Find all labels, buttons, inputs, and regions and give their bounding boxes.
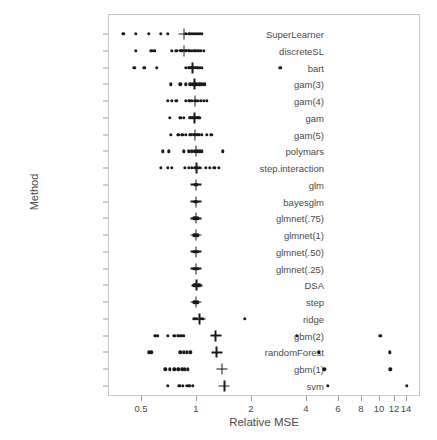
- x-tick-label-2: 2: [248, 403, 253, 414]
- mean-marker: [191, 246, 202, 257]
- y-tick-label-gam-4: gam(4): [294, 96, 324, 107]
- mean-marker: [190, 129, 201, 140]
- y-tick-label-gam-3: gam(3): [294, 79, 324, 90]
- x-tick-mark: [406, 396, 407, 401]
- y-tick-label-glmnet-1: glmnet(1): [284, 230, 324, 241]
- y-tick-label-bayesglm: bayesglm: [283, 196, 324, 207]
- plot-panel: [108, 14, 420, 396]
- y-tick-mark: [103, 251, 108, 252]
- y-tick-label-gbm-1: gbm(1): [294, 364, 324, 375]
- y-tick-mark: [103, 285, 108, 286]
- y-tick-mark: [103, 302, 108, 303]
- y-tick-mark: [103, 201, 108, 202]
- x-tick-label-12: 12: [389, 403, 400, 414]
- y-tick-mark: [103, 318, 108, 319]
- y-tick-mark: [103, 335, 108, 336]
- mean-marker: [191, 179, 202, 190]
- mean-marker: [191, 297, 202, 308]
- y-tick-mark: [103, 101, 108, 102]
- y-tick-label-discretesl: discreteSL: [279, 45, 324, 56]
- y-tick-label-glm: glm: [309, 179, 324, 190]
- y-tick-label-gam-5: gam(5): [294, 129, 324, 140]
- y-tick-mark: [103, 151, 108, 152]
- x-tick-mark: [361, 396, 362, 401]
- mean-marker: [191, 263, 202, 274]
- x-tick-mark: [306, 396, 307, 401]
- y-tick-label-randomforest: randomForest: [265, 347, 324, 358]
- chart-figure: Method Relative MSE SuperLearnerdiscrete…: [0, 0, 437, 440]
- x-tick-mark: [196, 396, 197, 401]
- x-tick-mark: [251, 396, 252, 401]
- mean-marker: [189, 112, 200, 123]
- y-tick-label-ridge: ridge: [303, 313, 324, 324]
- y-tick-mark: [103, 268, 108, 269]
- mean-marker: [191, 213, 202, 224]
- y-tick-label-polymars: polymars: [285, 146, 324, 157]
- mean-marker: [191, 280, 202, 291]
- y-tick-label-superlearner: SuperLearner: [266, 29, 324, 40]
- mean-marker: [217, 364, 228, 375]
- y-tick-label-gam: gam: [306, 112, 324, 123]
- y-tick-label-svm: svm: [307, 380, 324, 391]
- y-tick-label-bart: bart: [308, 62, 324, 73]
- x-tick-mark: [379, 396, 380, 401]
- mean-marker: [191, 163, 202, 174]
- x-tick-mark: [338, 396, 339, 401]
- x-tick-label-8: 8: [358, 403, 363, 414]
- y-tick-label-step-interaction: step.interaction: [260, 163, 324, 174]
- y-tick-label-glmnet-50: glmnet(.50): [276, 246, 324, 257]
- x-tick-mark: [394, 396, 395, 401]
- y-tick-mark: [103, 369, 108, 370]
- y-tick-mark: [103, 168, 108, 169]
- y-tick-label-glmnet-25: glmnet(.25): [276, 263, 324, 274]
- y-tick-mark: [103, 385, 108, 386]
- x-tick-label-14: 14: [401, 403, 412, 414]
- y-tick-mark: [103, 352, 108, 353]
- y-tick-label-glmnet-75: glmnet(.75): [276, 213, 324, 224]
- y-tick-mark: [103, 117, 108, 118]
- mean-marker: [189, 79, 200, 90]
- mean-marker: [179, 29, 190, 40]
- mean-marker: [219, 380, 230, 391]
- y-tick-mark: [103, 235, 108, 236]
- x-tick-label-6: 6: [335, 403, 340, 414]
- x-tick-label-4: 4: [303, 403, 308, 414]
- y-tick-label-dsa: DSA: [304, 280, 324, 291]
- mean-marker: [190, 96, 201, 107]
- mean-marker: [179, 45, 190, 56]
- mean-marker: [187, 62, 198, 73]
- y-tick-label-step: step: [306, 297, 324, 308]
- x-tick-label-0.5: 0.5: [134, 403, 147, 414]
- y-axis-title: Method: [28, 152, 40, 232]
- mean-marker: [194, 313, 205, 324]
- y-tick-label-gbm-2: gbm(2): [294, 330, 324, 341]
- y-tick-mark: [103, 50, 108, 51]
- y-tick-mark: [103, 84, 108, 85]
- mean-marker: [191, 230, 202, 241]
- mean-marker: [191, 196, 202, 207]
- mean-marker: [211, 347, 222, 358]
- y-tick-mark: [103, 67, 108, 68]
- y-tick-mark: [103, 134, 108, 135]
- y-tick-mark: [103, 218, 108, 219]
- x-axis-title: Relative MSE: [108, 416, 420, 428]
- mean-marker: [210, 330, 221, 341]
- x-tick-label-10: 10: [374, 403, 385, 414]
- mean-marker: [191, 146, 202, 157]
- x-tick-label-1: 1: [193, 403, 198, 414]
- y-tick-mark: [103, 184, 108, 185]
- cropped-caption: [0, 0, 437, 12]
- x-tick-mark: [141, 396, 142, 401]
- y-tick-mark: [103, 34, 108, 35]
